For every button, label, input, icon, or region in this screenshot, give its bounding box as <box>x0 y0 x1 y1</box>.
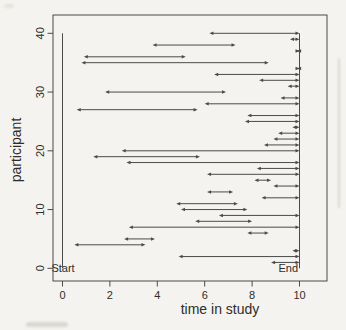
segment-end-arrowhead <box>296 126 300 130</box>
segment-start-arrowhead <box>81 61 85 65</box>
segment-end-arrowhead <box>296 149 300 153</box>
segment-end-arrowhead <box>296 131 300 135</box>
segment-start-arrowhead <box>273 184 277 188</box>
segment-end-arrowhead <box>296 102 300 106</box>
segment-end-arrowhead <box>248 220 252 224</box>
segment-start-arrowhead <box>257 167 261 171</box>
segment-start-arrowhead <box>181 208 185 212</box>
segment-end-arrowhead <box>222 90 226 94</box>
segment-end-arrowhead <box>296 143 300 147</box>
plot-frame <box>53 15 327 281</box>
segment-start-arrowhead <box>205 102 209 106</box>
segment-start-arrowhead <box>74 243 78 247</box>
segment-start-arrowhead <box>84 55 88 59</box>
y-tick-label: 40 <box>34 27 46 39</box>
segment-end-arrowhead <box>296 37 300 41</box>
segment-end-arrowhead <box>296 161 300 165</box>
x-tick-label: 4 <box>154 289 160 301</box>
segment-start-arrowhead <box>245 120 249 124</box>
segment-end-arrowhead <box>296 167 300 171</box>
start-label: Start <box>51 262 74 274</box>
segment-end-arrowhead <box>296 84 300 88</box>
segment-start-arrowhead <box>278 131 282 135</box>
segment-end-arrowhead <box>296 120 300 124</box>
segment-start-arrowhead <box>273 137 277 141</box>
segment-end-arrowhead <box>296 114 300 118</box>
x-tick-label: 2 <box>107 289 113 301</box>
x-tick-label: 0 <box>59 289 65 301</box>
segment-end-arrowhead <box>296 79 300 83</box>
segment-start-arrowhead <box>124 237 128 241</box>
y-tick-label: 10 <box>34 203 46 215</box>
segment-end-arrowhead <box>234 202 238 206</box>
segment-end-arrowhead <box>265 61 269 65</box>
x-tick-label: 6 <box>202 289 208 301</box>
x-tick-label: 8 <box>249 289 255 301</box>
y-tick-label: 20 <box>34 145 46 157</box>
segment-start-arrowhead <box>247 114 251 118</box>
segment-start-arrowhead <box>290 37 294 41</box>
segment-start-arrowhead <box>93 155 97 159</box>
y-tick-label: 0 <box>34 265 46 271</box>
segment-end-arrowhead <box>151 237 155 241</box>
segment-start-arrowhead <box>195 220 199 224</box>
segment-start-arrowhead <box>207 190 211 194</box>
plot-generated: 0246810010203040 <box>34 15 327 301</box>
segment-start-arrowhead <box>105 90 109 94</box>
segment-end-arrowhead <box>296 196 300 200</box>
segment-end-arrowhead <box>296 49 300 53</box>
segment-start-arrowhead <box>262 196 266 200</box>
segment-end-arrowhead <box>296 32 300 36</box>
segment-start-arrowhead <box>214 73 218 77</box>
segment-start-arrowhead <box>209 32 213 36</box>
segment-start-arrowhead <box>247 231 251 235</box>
segment-end-arrowhead <box>296 249 300 253</box>
segment-start-arrowhead <box>176 202 180 206</box>
x-axis-title: time in study <box>181 301 260 317</box>
follow-up-chart: 0246810010203040 time in study participa… <box>0 0 346 330</box>
segment-end-arrowhead <box>296 73 300 77</box>
segment-end-arrowhead <box>296 225 300 229</box>
segment-end-arrowhead <box>296 214 300 218</box>
segment-start-arrowhead <box>179 255 183 259</box>
segment-start-arrowhead <box>207 173 211 177</box>
segment-start-arrowhead <box>271 261 275 265</box>
segment-end-arrowhead <box>229 190 233 194</box>
segment-start-arrowhead <box>153 43 157 47</box>
segment-end-arrowhead <box>296 255 300 259</box>
segment-end-arrowhead <box>265 231 269 235</box>
segment-start-arrowhead <box>288 84 292 88</box>
x-tick-label: 10 <box>293 289 305 301</box>
segment-end-arrowhead <box>267 178 271 182</box>
scanned-figure: 0246810010203040 time in study participa… <box>0 0 346 330</box>
segment-start-arrowhead <box>264 143 268 147</box>
segment-end-arrowhead <box>296 67 300 71</box>
segment-start-arrowhead <box>122 149 126 153</box>
segment-end-arrowhead <box>243 208 247 212</box>
y-tick-label: 30 <box>34 86 46 98</box>
segment-end-arrowhead <box>296 137 300 141</box>
segment-start-arrowhead <box>129 225 133 229</box>
segment-start-arrowhead <box>126 161 130 165</box>
segment-end-arrowhead <box>296 173 300 177</box>
segment-end-arrowhead <box>232 43 236 47</box>
segment-end-arrowhead <box>182 55 186 59</box>
segment-end-arrowhead <box>194 108 198 112</box>
end-label: End <box>278 262 298 274</box>
segment-end-arrowhead <box>296 96 300 100</box>
segment-start-arrowhead <box>77 108 81 112</box>
segment-end-arrowhead <box>196 155 200 159</box>
y-axis-title: participant <box>8 118 24 183</box>
segment-end-arrowhead <box>296 184 300 188</box>
segment-start-arrowhead <box>254 178 258 182</box>
segment-start-arrowhead <box>219 214 223 218</box>
segment-end-arrowhead <box>141 243 145 247</box>
segment-start-arrowhead <box>259 79 263 83</box>
segment-start-arrowhead <box>281 96 285 100</box>
